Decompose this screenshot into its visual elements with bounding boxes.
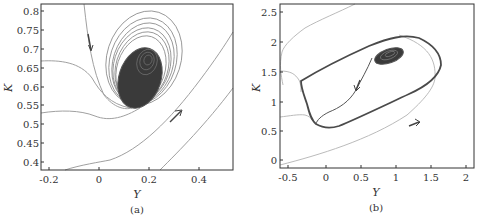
svg-text:0.5: 0.5 bbox=[23, 119, 39, 130]
svg-text:1.5: 1.5 bbox=[423, 172, 439, 183]
svg-text:0: 0 bbox=[323, 172, 329, 183]
svg-text:1.5: 1.5 bbox=[261, 67, 277, 78]
caption-a: (a) bbox=[107, 204, 167, 215]
svg-text:0.55: 0.55 bbox=[17, 100, 39, 111]
svg-text:0.6: 0.6 bbox=[23, 82, 39, 93]
svg-text:0.65: 0.65 bbox=[17, 63, 39, 74]
x-axis-label-b: Y bbox=[372, 186, 381, 199]
svg-text:0.4: 0.4 bbox=[191, 174, 207, 185]
x-axis-label-a: Y bbox=[133, 188, 142, 201]
svg-text:2.5: 2.5 bbox=[261, 7, 277, 18]
svg-text:0.4: 0.4 bbox=[23, 157, 39, 168]
svg-text:0: 0 bbox=[96, 174, 102, 185]
y-axis-label-a: K bbox=[2, 83, 15, 93]
plot-area-a bbox=[41, 1, 233, 170]
svg-text:0.45: 0.45 bbox=[17, 138, 39, 149]
svg-text:0.5: 0.5 bbox=[261, 126, 277, 137]
panel-a: 0.8 0.75 0.7 0.65 0.6 0.55 0.5 0.45 0.4 … bbox=[0, 0, 239, 221]
svg-text:0.2: 0.2 bbox=[141, 174, 157, 185]
svg-text:0.5: 0.5 bbox=[353, 172, 369, 183]
svg-text:2: 2 bbox=[463, 172, 469, 183]
svg-text:0.7: 0.7 bbox=[23, 44, 39, 55]
svg-text:1: 1 bbox=[271, 97, 277, 108]
caption-b: (b) bbox=[346, 202, 406, 213]
panel-b: 2.5 2 1.5 1 0.5 0 -0.5 0 0.5 1 1.5 2 Y K… bbox=[239, 0, 478, 221]
y-tick-labels-a: 0.8 0.75 0.7 0.65 0.6 0.55 0.5 0.45 0.4 bbox=[17, 6, 39, 168]
svg-text:0.8: 0.8 bbox=[23, 6, 39, 17]
phase-portrait-b: 2.5 2 1.5 1 0.5 0 -0.5 0 0.5 1 1.5 2 Y K bbox=[239, 0, 478, 221]
arrow-up-right-icon bbox=[170, 111, 181, 122]
svg-text:0: 0 bbox=[271, 155, 277, 166]
y-tick-labels-b: 2.5 2 1.5 1 0.5 0 bbox=[261, 7, 277, 166]
limit-cycle bbox=[301, 36, 441, 127]
svg-text:1: 1 bbox=[393, 172, 399, 183]
svg-text:2: 2 bbox=[271, 37, 277, 48]
svg-text:-0.5: -0.5 bbox=[278, 172, 297, 183]
plot-area-b bbox=[280, 4, 441, 165]
x-tick-labels-a: -0.2 0 0.2 0.4 bbox=[39, 174, 207, 185]
x-tick-labels-b: -0.5 0 0.5 1 1.5 2 bbox=[278, 172, 469, 183]
svg-text:-0.2: -0.2 bbox=[39, 174, 58, 185]
phase-portrait-a: 0.8 0.75 0.7 0.65 0.6 0.55 0.5 0.45 0.4 … bbox=[0, 0, 239, 221]
y-axis-label-b: K bbox=[250, 83, 263, 93]
axes-frame-b bbox=[280, 4, 474, 168]
svg-text:0.75: 0.75 bbox=[17, 25, 39, 36]
